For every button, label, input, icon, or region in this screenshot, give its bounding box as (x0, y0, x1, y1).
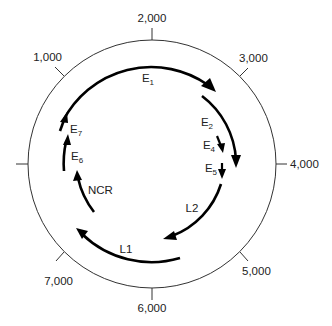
tick-label-3000: 3,000 (239, 52, 268, 64)
gene-label-ncr: NCR (88, 184, 113, 196)
tick-1000: 1,000 (33, 51, 64, 76)
gene-label-e6: E6 (71, 150, 84, 165)
tick-7000: 7,000 (44, 252, 73, 287)
tick-5000: 5,000 (240, 252, 271, 277)
tick-label-1000: 1,000 (33, 51, 62, 63)
gene-e1-arrow: E1 (63, 67, 216, 121)
gene-label-e4: E4 (203, 139, 216, 154)
gene-label-e5: E5 (205, 162, 218, 177)
gene-label-e7: E7 (70, 123, 83, 138)
tick-label-2000: 2,000 (138, 12, 167, 24)
tick-3000: 3,000 (239, 52, 268, 76)
gene-label-e1: E1 (142, 72, 155, 87)
tick-label-7000: 7,000 (44, 275, 73, 287)
tick-2000: 2,000 (138, 12, 167, 40)
tick-label-6000: 6,000 (138, 302, 167, 314)
tick-label-4000: 4,000 (290, 158, 319, 170)
gene-l2-arrow: L2 (163, 184, 221, 240)
gene-e2-arrow: E2 (201, 96, 241, 168)
gene-e5-arrow: E5 (205, 162, 226, 179)
gene-label-l2: L2 (186, 202, 199, 214)
gene-l1-arrow: L1 (76, 228, 180, 262)
gene-label-l1: L1 (120, 243, 133, 255)
genome-map-diagram: 2,000 3,000 4,000 5,000 6,000 7,000 1,00… (0, 0, 332, 326)
tick-6000: 6,000 (138, 288, 167, 314)
tick-label-5000: 5,000 (242, 265, 271, 277)
gene-label-e2: E2 (201, 116, 214, 131)
gene-ncr-arrow: NCR (73, 170, 113, 212)
gene-e4-arrow: E4 (203, 136, 225, 154)
gene-e7-arrow: E7 (60, 112, 83, 138)
gene-e6-arrow: E6 (63, 134, 84, 171)
tick-4000: 4,000 (276, 158, 319, 170)
